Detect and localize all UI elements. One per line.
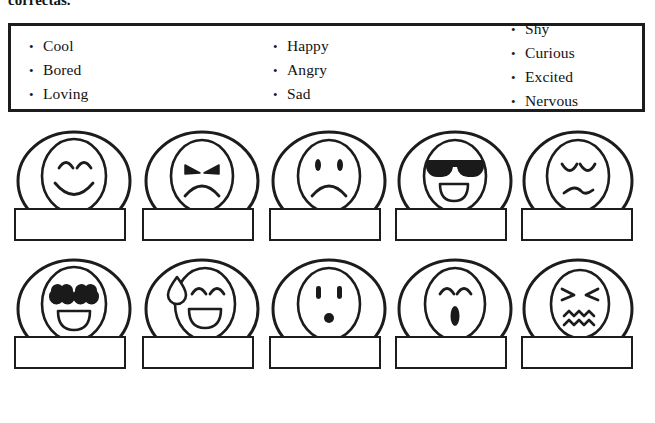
bullet-icon: • [29, 35, 43, 59]
face-row-1 [0, 124, 655, 256]
word-label: Angry [287, 58, 327, 82]
word-bank-column-2: • Happy • Angry • Sad [273, 34, 329, 106]
answer-box[interactable] [14, 336, 126, 369]
bullet-icon: • [29, 83, 43, 107]
face-cell[interactable] [266, 124, 392, 256]
bullet-icon: • [511, 90, 525, 114]
answer-box[interactable] [521, 336, 633, 369]
face-cell[interactable] [139, 124, 265, 256]
word-bank-item[interactable]: • Cool [29, 34, 88, 58]
word-bank-item[interactable]: • Excited [511, 65, 578, 89]
bullet-icon: • [511, 18, 525, 42]
face-cell[interactable] [266, 252, 392, 384]
word-label: Nervous [525, 89, 578, 113]
instruction-label: correctas. [8, 0, 308, 9]
word-bank-column-3: • Shy • Curious • Excited • Nervous [511, 17, 578, 113]
answer-box[interactable] [269, 336, 381, 369]
face-row-2 [0, 252, 655, 384]
word-bank-item[interactable]: • Loving [29, 82, 88, 106]
word-label: Shy [525, 17, 549, 41]
word-bank-item[interactable]: • Happy [273, 34, 329, 58]
answer-box[interactable] [395, 208, 507, 241]
face-cell[interactable] [11, 124, 137, 256]
answer-box[interactable] [395, 336, 507, 369]
answer-box[interactable] [521, 208, 633, 241]
answer-box[interactable] [269, 208, 381, 241]
word-bank-item[interactable]: • Curious [511, 41, 578, 65]
word-bank-item[interactable]: • Bored [29, 58, 88, 82]
face-cell[interactable] [392, 124, 518, 256]
answer-box[interactable] [142, 336, 254, 369]
instruction-text: correctas. [8, 0, 308, 9]
word-bank-column-1: • Cool • Bored • Loving [29, 34, 88, 106]
bullet-icon: • [273, 59, 287, 83]
word-label: Bored [43, 58, 81, 82]
bullet-icon: • [511, 66, 525, 90]
word-label: Excited [525, 65, 573, 89]
face-cell[interactable] [518, 252, 644, 384]
answer-box[interactable] [14, 208, 126, 241]
face-cell[interactable] [139, 252, 265, 384]
bullet-icon: • [273, 83, 287, 107]
face-cell[interactable] [11, 252, 137, 384]
word-label: Happy [287, 34, 329, 58]
bullet-icon: • [511, 42, 525, 66]
word-bank-item[interactable]: • Sad [273, 82, 329, 106]
word-bank-box: • Cool • Bored • Loving • Happy • Angry [8, 23, 645, 112]
face-cell[interactable] [518, 124, 644, 256]
word-bank-item[interactable]: • Shy [511, 17, 578, 41]
answer-box[interactable] [142, 208, 254, 241]
word-label: Curious [525, 41, 575, 65]
word-label: Cool [43, 34, 74, 58]
word-label: Loving [43, 82, 88, 106]
bullet-icon: • [29, 59, 43, 83]
word-bank-item[interactable]: • Nervous [511, 89, 578, 113]
bullet-icon: • [273, 35, 287, 59]
face-cell[interactable] [392, 252, 518, 384]
word-bank-item[interactable]: • Angry [273, 58, 329, 82]
word-label: Sad [287, 82, 311, 106]
